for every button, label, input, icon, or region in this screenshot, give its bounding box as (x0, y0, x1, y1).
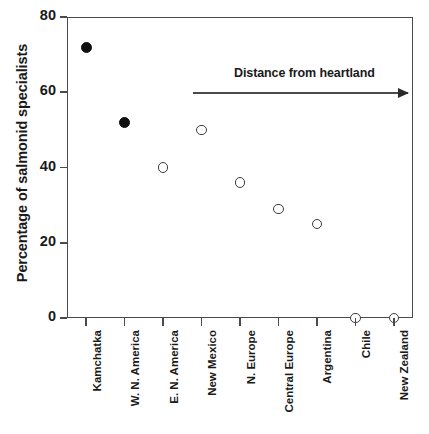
plot-area (67, 17, 413, 318)
y-axis-tick-mark (60, 317, 67, 319)
x-axis-tick-label: New Mexico (206, 330, 218, 396)
y-axis-tick-mark (60, 16, 67, 18)
x-axis-tick-mark (355, 318, 357, 326)
y-axis-tick-mark (60, 167, 67, 169)
chart-figure: Percentage of salmonid specialists Dista… (0, 0, 429, 434)
data-point-marker (273, 204, 284, 215)
data-point-marker (196, 125, 207, 136)
x-axis-tick-label: Kamchatka (91, 330, 103, 391)
data-point-marker (158, 162, 169, 173)
y-axis-tick-mark (60, 91, 67, 93)
x-axis-tick-label: Argentina (321, 330, 333, 384)
x-axis-tick-mark (201, 318, 203, 326)
x-axis-tick-label: Chile (360, 330, 372, 358)
data-point-marker (235, 177, 246, 188)
x-axis-tick-mark (393, 318, 395, 326)
x-axis-tick-mark (278, 318, 280, 326)
y-axis-tick-label: 60 (40, 82, 56, 98)
annotation-label: Distance from heartland (234, 66, 375, 80)
x-axis-tick-label: E. N. America (168, 330, 180, 404)
x-axis-tick-mark (85, 318, 87, 326)
y-axis-tick-label: 20 (40, 233, 56, 249)
x-axis-tick-mark (162, 318, 164, 326)
y-axis-tick-mark (60, 242, 67, 244)
y-axis-tick-label: 80 (40, 7, 56, 23)
x-axis-tick-label: New Zealand (398, 330, 410, 400)
y-axis-tick-label: 0 (48, 308, 56, 324)
x-axis-tick-mark (239, 318, 241, 326)
x-axis-tick-label: W. N. America (129, 330, 141, 406)
y-axis-title: Percentage of salmonid specialists (14, 3, 30, 323)
x-axis-tick-mark (124, 318, 126, 326)
y-axis-tick-label: 40 (40, 158, 56, 174)
distance-arrow-icon (193, 92, 408, 94)
data-point-marker (119, 117, 130, 128)
x-axis-tick-mark (316, 318, 318, 326)
x-axis-tick-label: Central Europe (283, 330, 295, 412)
data-point-marker (81, 42, 92, 53)
x-axis-tick-label: N. Europe (245, 330, 257, 384)
